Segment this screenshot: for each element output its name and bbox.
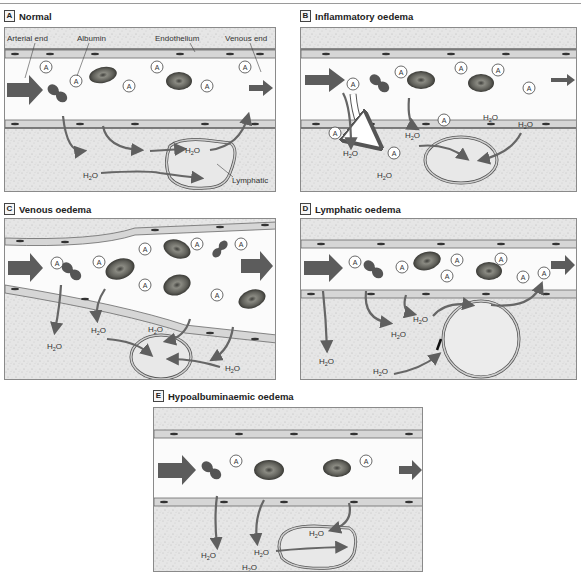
top-rule: [0, 3, 581, 4]
panel-title-text: Normal: [19, 11, 52, 22]
red-blood-cell: [254, 460, 284, 480]
svg-text:A: A: [55, 260, 60, 267]
svg-text:A: A: [353, 259, 358, 266]
svg-text:A: A: [44, 64, 49, 71]
svg-text:A: A: [364, 458, 369, 465]
svg-text:A: A: [399, 69, 404, 76]
svg-text:A: A: [215, 292, 220, 299]
svg-text:A: A: [155, 64, 160, 71]
label-endothelium: Endothelium: [155, 34, 200, 43]
panel-a-title: A Normal: [4, 10, 52, 22]
svg-text:A: A: [143, 282, 148, 289]
red-blood-cell: [407, 71, 435, 89]
svg-text:A: A: [542, 270, 547, 277]
panel-title-text: Hypoalbuminaemic oedema: [168, 391, 294, 402]
red-blood-cell: [468, 74, 494, 92]
svg-text:A: A: [333, 130, 338, 137]
svg-text:A: A: [239, 241, 244, 248]
panel-lymphatic-oedema: A A A A A A A H2O H2O H2O H2O: [300, 218, 577, 380]
panel-title-text: Venous oedema: [19, 204, 91, 215]
panel-letter: C: [4, 203, 15, 215]
red-blood-cell: [166, 72, 192, 90]
label-venous-end: Venous end: [225, 34, 267, 43]
panel-normal: A A A A A A H2O H2O Arterial end Albumin…: [4, 27, 276, 192]
svg-text:A: A: [459, 65, 464, 72]
svg-text:A: A: [97, 259, 102, 266]
panel-letter: D: [300, 203, 311, 215]
svg-text:A: A: [400, 264, 405, 271]
panel-inflammatory-oedema: A A A A A A A A H2O H2O H2O H2O H2O: [300, 27, 577, 192]
panel-hypoalbuminaemic-oedema: A A H2O H2O H2O H2O: [153, 407, 423, 572]
red-blood-cell: [323, 459, 351, 477]
svg-text:A: A: [205, 83, 210, 90]
panel-c-title: C Venous oedema: [4, 203, 91, 215]
svg-text:A: A: [127, 83, 132, 90]
panel-title-text: Lymphatic oedema: [315, 204, 401, 215]
svg-text:A: A: [521, 274, 526, 281]
panel-letter: B: [300, 10, 311, 22]
svg-text:A: A: [143, 246, 148, 253]
panel-venous-oedema: A A A A A A A H2O H2O H2O H2O: [4, 218, 276, 380]
svg-text:A: A: [243, 64, 248, 71]
svg-text:A: A: [442, 117, 447, 124]
capillary: [154, 430, 423, 506]
label-albumin: Albumin: [77, 34, 106, 43]
panel-letter: A: [4, 10, 15, 22]
capillary: [301, 240, 577, 298]
panel-e-title: E Hypoalbuminaemic oedema: [153, 390, 294, 402]
svg-text:A: A: [74, 78, 79, 85]
svg-text:A: A: [392, 150, 397, 157]
label-arterial-end: Arterial end: [7, 34, 48, 43]
panel-letter: E: [153, 390, 164, 402]
svg-text:A: A: [496, 67, 501, 74]
panel-d-title: D Lymphatic oedema: [300, 203, 401, 215]
svg-text:A: A: [195, 241, 200, 248]
svg-text:A: A: [527, 85, 532, 92]
panel-title-text: Inflammatory oedema: [315, 11, 413, 22]
svg-text:A: A: [455, 257, 460, 264]
svg-text:A: A: [445, 273, 450, 280]
panel-b-title: B Inflammatory oedema: [300, 10, 413, 22]
label-lymphatic: Lymphatic: [232, 176, 268, 185]
svg-text:A: A: [499, 256, 504, 263]
svg-text:A: A: [351, 81, 356, 88]
svg-text:A: A: [234, 458, 239, 465]
